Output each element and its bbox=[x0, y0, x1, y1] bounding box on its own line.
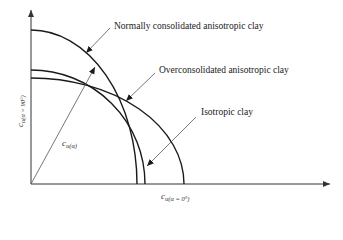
x-axis-label: cu(α = 0°) bbox=[161, 192, 189, 203]
label-isotropic: Isotropic clay bbox=[201, 108, 253, 118]
pointer-normally-consolidated bbox=[86, 28, 110, 53]
label-strength-vector: cu(α) bbox=[62, 139, 77, 150]
label-overconsolidated: Overconsolidated anisotropic clay bbox=[159, 66, 289, 76]
pointer-isotropic bbox=[147, 117, 196, 166]
x-axis-label-sub: u(α = 0°) bbox=[165, 195, 189, 202]
y-axis-label-main: c bbox=[15, 123, 25, 127]
curve-isotropic bbox=[31, 70, 145, 184]
curve-overconsolidated bbox=[31, 78, 184, 184]
strength-vector-arrow bbox=[31, 67, 95, 184]
y-axis-label: cu(α = 90°) bbox=[16, 95, 27, 127]
y-axis-label-sub: u(α = 90°) bbox=[19, 95, 26, 123]
pointer-overconsolidated bbox=[126, 73, 155, 101]
label-normally-consolidated: Normally consolidated anisotropic clay bbox=[114, 22, 264, 32]
curve-normally-consolidated bbox=[31, 30, 137, 184]
vector-label-sub: u(α) bbox=[66, 142, 77, 149]
